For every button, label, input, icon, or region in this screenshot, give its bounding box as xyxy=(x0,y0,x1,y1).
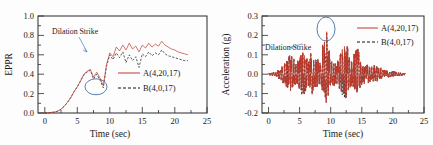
y-ticklabel-5: 0.3 xyxy=(247,11,258,21)
figure-container: 0.0 0.2 0.4 0.6 0.8 1.0 0 5 xyxy=(0,0,433,145)
acceleration-chart-svg: -0.2 -0.1 0.0 0.1 0.2 0.3 0 5 xyxy=(216,0,433,145)
x-ticklabel-3: 15 xyxy=(358,116,367,126)
legend: A(4,20,17) B(4,0,17) xyxy=(357,23,418,47)
y-ticklabel-2: 0.0 xyxy=(247,69,258,79)
x-ticklabel-5: 25 xyxy=(420,116,429,126)
y-ticklabel-0: -0.2 xyxy=(245,108,258,118)
y-ticklabel-4: 0.2 xyxy=(247,30,258,40)
legend-label-b: B(4,0,17) xyxy=(381,37,414,47)
legend-label-b: B(4,0,17) xyxy=(143,83,176,93)
x-ticklabel-4: 20 xyxy=(389,116,398,126)
highlight-ellipse xyxy=(85,79,107,95)
legend-label-a: A(4,20,17) xyxy=(143,68,180,78)
x-axis-label: Time (sec) xyxy=(90,129,131,140)
y-ticklabel-1: 0.2 xyxy=(23,89,34,99)
x-axis-ticks xyxy=(269,107,425,113)
y-ticklabel-4: 0.8 xyxy=(23,30,34,40)
y-axis-ticks xyxy=(262,16,268,113)
legend: A(4,20,17) B(4,0,17) xyxy=(118,68,180,93)
x-ticklabel-1: 5 xyxy=(297,116,301,126)
x-ticklabel-2: 10 xyxy=(326,116,335,126)
y-ticklabel-0: 0.0 xyxy=(23,108,34,118)
dilation-strike-annotation: Dilation Strike xyxy=(265,43,312,52)
x-ticklabel-3: 15 xyxy=(138,116,147,126)
x-ticklabel-1: 5 xyxy=(75,116,79,126)
dilation-strike-arrowhead-icon xyxy=(83,48,87,52)
y-axis-ticks xyxy=(38,16,44,113)
dilation-strike-annotation: Dilation Strike xyxy=(52,27,99,36)
x-ticklabel-2: 10 xyxy=(106,116,115,126)
eppr-panel: 0.0 0.2 0.4 0.6 0.8 1.0 0 5 xyxy=(0,0,216,145)
y-ticklabel-5: 1.0 xyxy=(23,11,34,21)
highlight-ellipse xyxy=(317,17,335,41)
y-ticklabel-2: 0.4 xyxy=(23,69,34,79)
y-ticklabel-1: -0.1 xyxy=(245,89,258,99)
x-axis-label: Time (sec) xyxy=(323,129,364,140)
y-axis-label: Acceleration (g) xyxy=(221,34,232,96)
legend-label-a: A(4,20,17) xyxy=(381,23,418,33)
y-ticklabel-3: 0.1 xyxy=(247,50,258,60)
y-ticklabel-3: 0.6 xyxy=(23,50,34,60)
acceleration-panel: -0.2 -0.1 0.0 0.1 0.2 0.3 0 5 xyxy=(216,0,433,145)
x-axis-ticks xyxy=(45,107,207,113)
x-ticklabel-0: 0 xyxy=(266,116,270,126)
x-ticklabel-5: 25 xyxy=(203,116,212,126)
y-axis-label: EPPR xyxy=(4,52,14,75)
x-ticklabel-4: 20 xyxy=(171,116,180,126)
x-ticklabel-0: 0 xyxy=(43,116,47,126)
eppr-chart-svg: 0.0 0.2 0.4 0.6 0.8 1.0 0 5 xyxy=(0,0,216,145)
